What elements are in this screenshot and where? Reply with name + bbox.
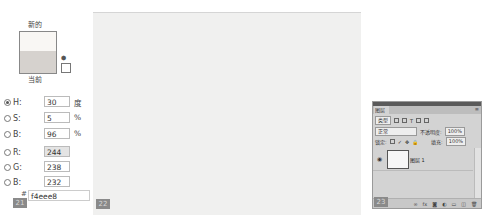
layers-panel: 图层 ≡ 类型 T 正常 不透明度: 100% 锁定: ✓ ✥ 🔒 填充: 10… (372, 101, 482, 209)
field-row-r: R: (4, 146, 27, 158)
opacity-input[interactable]: 100% (445, 127, 465, 136)
label-h: H: (13, 98, 27, 107)
add-mask-icon[interactable]: ◙ (432, 201, 437, 207)
visibility-eye-icon[interactable]: ◉ (377, 155, 382, 162)
field-row-g: G: (4, 161, 27, 173)
gamut-warning-icon[interactable]: ⬢ (61, 55, 68, 61)
label-s: S: (13, 114, 27, 123)
blend-mode-select[interactable]: 正常 (375, 127, 417, 136)
new-color-label: 新的 (28, 19, 42, 29)
radio-blue[interactable] (4, 179, 11, 186)
layer-name[interactable]: 图层 1 (410, 156, 425, 163)
step-badge-22: 22 (96, 199, 110, 209)
lock-move-icon[interactable]: ✥ (405, 139, 409, 145)
adjustment-layer-icon[interactable]: ◐ (442, 201, 446, 207)
new-color-swatch (20, 32, 56, 51)
layers-scrollbar[interactable] (474, 148, 481, 198)
layer-style-icon[interactable]: fx (423, 201, 428, 207)
fill-input[interactable]: 100% (446, 137, 466, 146)
step-badge-21: 21 (13, 198, 27, 208)
opacity-label: 不透明度: (420, 128, 442, 135)
unit-h: 度 (74, 97, 81, 108)
panel-footer: ∞ fx ◙ ◐ ▭ ◫ 🗑 (373, 198, 481, 208)
radio-h[interactable] (4, 99, 11, 106)
new-group-icon[interactable]: ▭ (452, 201, 457, 207)
hex-input[interactable]: f4eee8 (28, 190, 90, 201)
label-r: R: (13, 148, 27, 157)
current-color-label: 当前 (28, 74, 42, 84)
lock-paint-icon[interactable]: ✓ (398, 139, 402, 145)
step-badge-23: 23 (374, 197, 388, 207)
label-blue: B: (13, 178, 27, 187)
field-row-s: S: (4, 112, 27, 124)
blend-row: 正常 不透明度: 100% (375, 127, 465, 136)
type-filter-icon[interactable]: T (410, 118, 413, 124)
field-row-blue: B: (4, 176, 27, 188)
radio-r[interactable] (4, 149, 11, 156)
radio-b[interactable] (4, 131, 11, 138)
input-g[interactable]: 238 (44, 161, 70, 172)
fill-label: 填充: (431, 138, 443, 145)
layer-thumbnail (387, 150, 409, 169)
field-row-b: B: (4, 128, 27, 140)
smart-filter-icon[interactable] (424, 118, 429, 123)
shape-filter-icon[interactable] (416, 118, 421, 123)
input-b[interactable]: 96 (44, 128, 70, 139)
panel-menu-icon[interactable]: ≡ (475, 106, 479, 112)
lock-row: 锁定: ✓ ✥ 🔒 填充: 100% (375, 137, 466, 146)
input-blue[interactable]: 232 (44, 176, 70, 187)
field-row-h: H: (4, 96, 27, 108)
radio-s[interactable] (4, 115, 11, 122)
pixel-filter-icon[interactable] (394, 118, 399, 123)
web-safe-color-icon[interactable] (61, 63, 71, 73)
current-color-swatch[interactable] (20, 51, 56, 73)
radio-g[interactable] (4, 164, 11, 171)
canvas-area[interactable]: 22 (93, 12, 361, 215)
panel-tabbar (373, 106, 481, 114)
new-layer-icon[interactable]: ◫ (461, 201, 466, 207)
hash-label: # (21, 190, 27, 198)
link-layers-icon[interactable]: ∞ (413, 201, 417, 207)
input-s[interactable]: 5 (44, 112, 70, 123)
unit-s: % (74, 113, 81, 122)
kind-filter-select[interactable]: 类型 (375, 116, 391, 125)
label-g: G: (13, 163, 27, 172)
adjustment-filter-icon[interactable] (402, 118, 407, 123)
lock-transparent-icon[interactable] (390, 139, 395, 144)
filter-row: 类型 T (375, 116, 429, 125)
color-swatch (19, 31, 57, 74)
lock-label: 锁定: (375, 138, 387, 145)
input-h[interactable]: 30 (44, 96, 70, 107)
lock-all-icon[interactable]: 🔒 (412, 139, 418, 145)
unit-b: % (74, 129, 81, 138)
delete-layer-icon[interactable]: 🗑 (471, 201, 477, 207)
tab-layers[interactable]: 图层 (374, 106, 389, 114)
input-r[interactable]: 244 (44, 146, 70, 157)
layer-item[interactable]: ◉ 图层 1 (373, 148, 473, 171)
label-b: B: (13, 130, 27, 139)
color-picker-panel: 新的 ⬢ 当前 H: 30 度 S: 5 % B: 96 % R: 244 G:… (0, 0, 90, 224)
